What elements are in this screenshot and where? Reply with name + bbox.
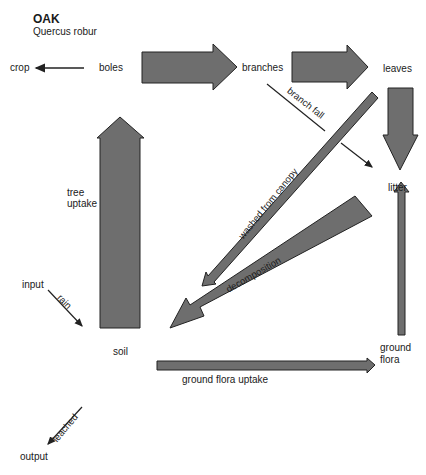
- diagram-title: OAK: [33, 12, 60, 26]
- node-branches: branches: [242, 62, 283, 74]
- boles-branches-arrow: [142, 44, 237, 90]
- branch-fall-arrow: [341, 143, 372, 167]
- node-input: input: [22, 279, 44, 291]
- flow-ground-flora-uptake: ground flora uptake: [182, 374, 268, 386]
- node-output: output: [20, 451, 48, 463]
- ground-flora-litter-arrow: [394, 182, 409, 335]
- branches-leaves-arrow: [292, 45, 368, 89]
- node-soil: soil: [113, 346, 128, 358]
- tree-uptake-arrow: [97, 117, 144, 328]
- nutrient-cycle-arrows: [0, 0, 426, 475]
- diagram-subtitle: Quercus robur: [33, 26, 97, 37]
- node-ground-flora-line2: flora: [380, 354, 399, 366]
- flow-tree-uptake-line2: uptake: [67, 198, 97, 210]
- ground-flora-uptake-arrow: [157, 358, 375, 373]
- node-boles: boles: [99, 62, 123, 74]
- node-ground-flora-line1: ground: [380, 342, 411, 354]
- node-leaves: leaves: [383, 63, 412, 75]
- leaves-litter-arrow: [383, 88, 418, 170]
- node-litter: litter: [388, 182, 407, 194]
- node-crop: crop: [10, 62, 29, 74]
